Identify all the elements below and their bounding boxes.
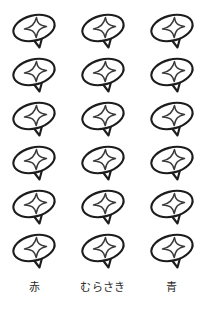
column-label-red: 赤 [29, 281, 40, 295]
spinning-top-star-icon[interactable] [75, 8, 131, 52]
spinning-top-star-icon[interactable] [75, 52, 131, 96]
spinning-top-star-icon[interactable] [144, 96, 200, 140]
spinning-top-star-icon[interactable] [6, 96, 62, 140]
spinning-top-star-icon[interactable] [144, 140, 200, 184]
column-label-purple: むらさき [80, 281, 125, 295]
spinning-top-star-icon[interactable] [75, 96, 131, 140]
spinning-top-star-icon[interactable] [75, 228, 131, 272]
spinning-top-star-icon[interactable] [144, 184, 200, 228]
column-label-row: 赤 むらさき 青 [0, 281, 206, 295]
worksheet-page: 赤 むらさき 青 [0, 0, 206, 311]
spinning-top-star-icon[interactable] [6, 184, 62, 228]
spinning-top-star-icon[interactable] [75, 140, 131, 184]
spinning-top-star-icon[interactable] [6, 52, 62, 96]
spinning-top-star-icon[interactable] [6, 8, 62, 52]
column-label-blue: 青 [166, 281, 177, 295]
spinning-top-star-icon[interactable] [144, 52, 200, 96]
spinning-top-star-icon[interactable] [6, 228, 62, 272]
spinning-top-star-icon[interactable] [144, 8, 200, 52]
spinning-top-star-icon[interactable] [144, 228, 200, 272]
spinning-top-star-icon[interactable] [6, 140, 62, 184]
spinning-top-star-icon[interactable] [75, 184, 131, 228]
icon-grid [0, 8, 206, 272]
